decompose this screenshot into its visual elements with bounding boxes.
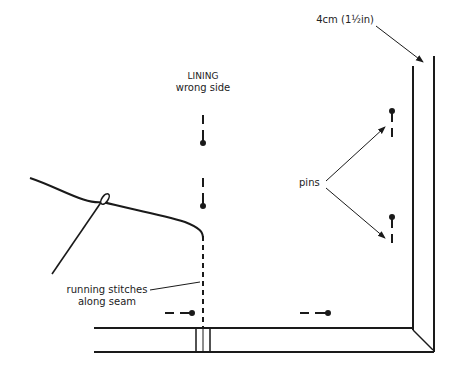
pin-icon [165,311,194,315]
stitches-label: running stitches along seam [57,284,157,308]
sewing-diagram [0,0,460,371]
lining-title: LINING [168,70,238,82]
pin-icon [201,178,205,208]
stitches-line1: running stitches [57,284,157,296]
lining-label: LINING wrong side [168,70,238,94]
lining-subtitle: wrong side [168,82,238,94]
pin-icon [390,109,394,137]
thread-line [30,178,203,238]
pin-icon [201,115,205,145]
stitches-line2: along seam [57,296,157,308]
measurement-label: 4cm (1½in) [316,14,374,26]
leader-lines [150,26,423,290]
pin-icon [390,215,394,243]
pin-icon [300,311,330,315]
hem-stitch-box [196,328,210,352]
needle-icon [52,192,111,274]
pins-label: pins [299,177,320,189]
